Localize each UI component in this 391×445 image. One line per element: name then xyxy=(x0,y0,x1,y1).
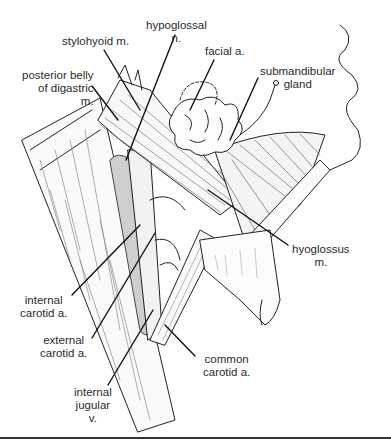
label-common-carotid: common carotid a. xyxy=(203,353,250,379)
label-hyoglossus: hyoglossus m. xyxy=(292,243,350,269)
cropped-caption xyxy=(0,440,391,445)
label-facial-artery: facial a. xyxy=(205,45,245,58)
label-hypoglossal-nerve: hypoglossal n. xyxy=(146,19,207,45)
anatomical-illustration: stylohyoid m. hypoglossal n. facial a. p… xyxy=(0,0,391,445)
label-external-carotid: external carotid a. xyxy=(40,334,87,360)
label-internal-jugular: internal jugular v. xyxy=(74,386,112,425)
label-posterior-belly-digastric: posterior belly of digastric m. xyxy=(22,69,94,108)
label-submandibular-gland: submandibular gland xyxy=(260,65,335,91)
label-internal-carotid: internal carotid a. xyxy=(20,294,67,320)
caption-divider xyxy=(0,437,391,439)
label-stylohyoid: stylohyoid m. xyxy=(62,35,129,48)
